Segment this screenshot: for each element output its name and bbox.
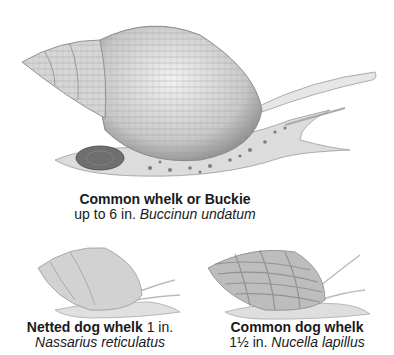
- common-dog-whelk-caption: Common dog whelk 1½ in. Nucella lapillus: [200, 320, 394, 350]
- netted-dog-whelk-illustration: [30, 240, 190, 320]
- species-latin-name: Buccinun undatum: [140, 206, 256, 222]
- species-size: 1 in.: [147, 319, 173, 335]
- species-name: Common whelk or Buckie: [40, 192, 290, 207]
- common-whelk-illustration: [0, 0, 394, 190]
- common-whelk-caption: Common whelk or Buckie up to 6 in. Bucci…: [40, 192, 290, 222]
- common-dog-whelk-illustration: [200, 240, 380, 320]
- netted-dog-whelk-caption: Netted dog whelk 1 in. Nassarius reticul…: [0, 320, 200, 350]
- species-size: 1½ in.: [229, 334, 267, 350]
- species-latin-name: Nucella lapillus: [271, 334, 364, 350]
- species-name: Common dog whelk: [200, 320, 394, 335]
- species-latin-name: Nassarius reticulatus: [0, 335, 200, 350]
- species-size: up to 6 in.: [74, 206, 136, 222]
- species-name: Netted dog whelk: [27, 319, 143, 335]
